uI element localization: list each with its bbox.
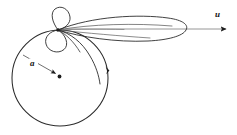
figure-canvas: a u (0, 0, 237, 135)
radius-label: a (30, 58, 35, 68)
trochoid-figure: a u (0, 0, 237, 135)
radius-arrow (23, 55, 56, 74)
circle-center-dot (58, 75, 62, 79)
velocity-label: u (215, 9, 220, 19)
large-lobe-inner-chord-mid (58, 29, 124, 30)
cusp-node (56, 28, 59, 31)
